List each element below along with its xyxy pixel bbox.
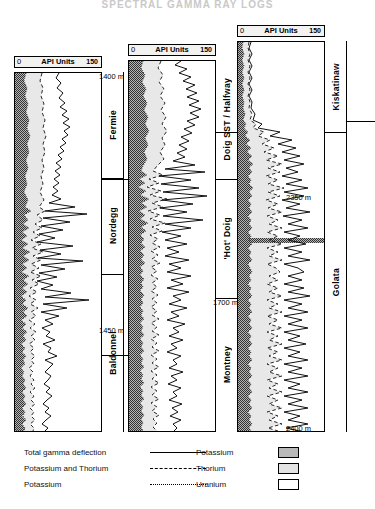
formation-label-hot-doig: 'Hot' Doig [222,217,232,259]
formation-segment-baldonnel[interactable]: Baldonnel [102,274,124,432]
legend-label-fill-thorium: Thorium [196,462,225,475]
legend-swatch-uranium-icon [278,479,299,490]
tie-line-right-edge-upper [347,121,375,122]
formation-label-montney: Montney [222,346,232,383]
legend-row-fill-potassium: Potassium [196,446,316,459]
scale-high-left: 150 [86,57,98,67]
formation-label-kiskatinaw: Kiskatinaw [331,63,341,110]
well-log-correlation-figure: SPECTRAL GAMMA RAY LOGS 0 API Units 150 [0,0,375,509]
legend-label-fill-uranium: Uranium [196,478,226,491]
tie-line-middle-right-lower [216,298,237,299]
formation-segment-kiskatinaw[interactable]: Kiskatinaw [325,41,347,132]
formation-label-baldonnel: Baldonnel [108,331,118,375]
log-curves-right [238,42,324,431]
formation-label-nordegg: Nordegg [108,207,118,244]
legend-label-potassium-and-thorium: Potassium and Thorium [24,462,108,475]
formation-label-fermie: Fermie [108,110,118,140]
depth-label-2350: 2350 m [286,193,311,202]
formation-segment-golata[interactable]: Golata [325,132,347,432]
legend: Total gamma deflection Potassium and Tho… [0,440,375,509]
legend-swatch-potassium-icon [278,447,299,458]
scale-header-right: 0 API Units 150 [237,25,325,37]
legend-label-fill-potassium: Potassium [196,446,233,459]
depth-label-1450: 1450 m [99,326,124,335]
scale-header-middle: 0 API Units 150 [128,44,216,56]
figure-title-cutoff: SPECTRAL GAMMA RAY LOGS [0,0,375,10]
legend-label-total-gamma: Total gamma deflection [24,446,106,459]
tie-line-left-middle-lower [102,355,128,356]
scale-high-right: 150 [309,26,321,36]
legend-label-potassium-curve: Potassium [24,478,61,491]
log-track-middle[interactable] [128,60,216,432]
formation-segment-montney[interactable]: Montney [216,298,238,432]
scale-high-middle: 150 [200,45,212,55]
legend-row-fill-thorium: Thorium [196,462,316,475]
formation-label-golata: Golata [331,268,341,296]
log-curves-middle [129,61,215,431]
log-curves-left [15,73,101,431]
log-track-left[interactable] [14,72,102,432]
tie-line-left-middle-upper [102,179,128,180]
depth-label-2400: 2400 m [286,424,311,433]
scale-header-left: 0 API Units 150 [14,56,102,68]
formation-column-middle: Doig SST / Halfway 'Hot' Doig Montney [216,60,238,432]
log-track-right[interactable] [237,41,325,432]
legend-swatch-thorium-icon [278,463,299,474]
formation-segment-fermie[interactable]: Fermie [102,72,124,178]
formation-label-doig-sst-halfway: Doig SST / Halfway [222,78,232,160]
depth-label-1700: 1700 m [213,298,238,307]
formation-segment-doig-sst-halfway[interactable]: Doig SST / Halfway [216,60,238,179]
legend-row-fill-uranium: Uranium [196,478,316,491]
depth-label-1400: 1400 m [99,72,124,81]
tie-line-middle-right-upper [216,132,237,133]
formation-column-left: Fermie Nordegg Baldonnel [102,72,124,432]
formation-column-right: Kiskatinaw Golata [325,41,347,432]
formation-segment-hot-doig[interactable]: 'Hot' Doig [216,179,238,298]
formation-segment-nordegg[interactable]: Nordegg [102,178,124,274]
